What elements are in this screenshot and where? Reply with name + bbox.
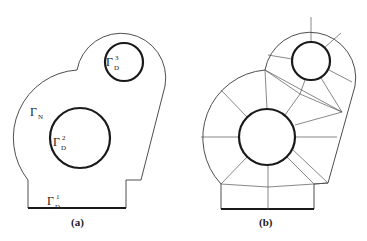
label-gamma-d3: Γ D 3 bbox=[106, 54, 119, 72]
svg-text:1: 1 bbox=[56, 193, 60, 201]
svg-text:D: D bbox=[61, 144, 66, 152]
svg-text:Γ: Γ bbox=[47, 194, 54, 208]
mesh-edge bbox=[265, 70, 267, 109]
mesh-edge bbox=[329, 70, 352, 82]
mesh-edge bbox=[300, 80, 305, 94]
panel-b: (b) bbox=[201, 17, 356, 229]
mesh-edge bbox=[221, 184, 314, 187]
mesh-edge bbox=[292, 149, 328, 183]
svg-text:Γ: Γ bbox=[30, 105, 37, 119]
figure-canvas: Γ N Γ D 2 Γ D 3 Γ D 1 (a) bbox=[0, 0, 367, 241]
svg-text:D: D bbox=[55, 203, 60, 211]
hole-small-b bbox=[292, 42, 330, 80]
label-gamma-d2: Γ D 2 bbox=[53, 134, 66, 152]
mesh-edge bbox=[265, 70, 342, 112]
mesh-lines bbox=[201, 17, 352, 209]
hole-large-b bbox=[239, 109, 295, 165]
caption-a: (a) bbox=[71, 216, 84, 229]
caption-b: (b) bbox=[259, 216, 273, 229]
svg-text:2: 2 bbox=[62, 134, 66, 142]
svg-text:Γ: Γ bbox=[106, 55, 113, 69]
mesh-edge bbox=[265, 70, 300, 94]
mesh-edge bbox=[314, 183, 328, 184]
svg-text:D: D bbox=[114, 64, 119, 72]
svg-text:Γ: Γ bbox=[53, 135, 60, 149]
svg-text:3: 3 bbox=[115, 54, 119, 62]
panel-a: Γ N Γ D 2 Γ D 3 Γ D 1 (a) bbox=[13, 33, 165, 229]
mesh-edge bbox=[285, 94, 300, 115]
mesh-edge bbox=[321, 78, 342, 112]
svg-text:N: N bbox=[38, 113, 43, 121]
mesh-edge bbox=[300, 94, 342, 112]
mesh-edge bbox=[221, 90, 247, 117]
domain-outline-b bbox=[203, 32, 356, 209]
label-gamma-n: Γ N bbox=[30, 105, 43, 121]
mesh-edge bbox=[221, 157, 247, 184]
mesh-edge bbox=[268, 55, 292, 59]
mesh-edge bbox=[287, 157, 314, 184]
mesh-edge bbox=[295, 112, 342, 125]
